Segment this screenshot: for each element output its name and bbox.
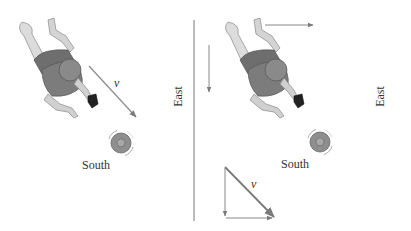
- right-player-illustration: [225, 18, 304, 118]
- vector-triangle: [225, 167, 274, 218]
- right-east-label: East: [373, 86, 388, 107]
- left-east-label: East: [171, 86, 186, 107]
- left-ball-icon: [109, 131, 133, 156]
- diagram-canvas: [0, 0, 411, 231]
- left-south-label: South: [82, 158, 110, 173]
- left-player-illustration: [19, 18, 98, 118]
- right-ball-icon: [308, 130, 332, 155]
- left-velocity-label: v: [114, 76, 119, 91]
- figure-stage: v South East v South East: [0, 0, 411, 231]
- left-velocity-arrow: [89, 66, 136, 117]
- right-south-label: South: [281, 157, 309, 172]
- right-velocity-label: v: [251, 177, 256, 192]
